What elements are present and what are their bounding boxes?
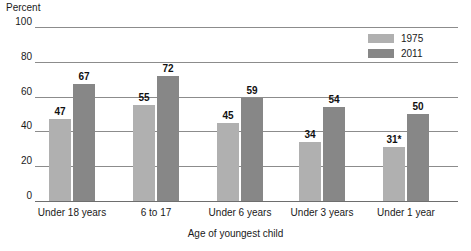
bar-group: 3454 — [299, 27, 345, 201]
bar-value-label: 50 — [401, 101, 435, 112]
legend-item-2011[interactable]: 2011 — [368, 47, 423, 60]
x-category-label: 6 to 17 — [141, 207, 172, 218]
y-tick-label-20: 20 — [6, 155, 32, 166]
bar-2011-under-1-year[interactable] — [407, 114, 429, 201]
x-axis-title: Age of youngest child — [0, 228, 471, 239]
x-category-label: Under 1 year — [377, 207, 435, 218]
bar-group: 5572 — [133, 27, 179, 201]
bar-chart: Percent 020406080100 476755724559345431*… — [0, 0, 471, 251]
bar-value-label: 34 — [293, 129, 327, 140]
bar-value-label: 47 — [43, 106, 77, 117]
y-tick-label-100: 100 — [6, 16, 32, 27]
bar-1975-6-to-17[interactable] — [133, 105, 155, 201]
y-axis-title: Percent — [6, 2, 40, 13]
bar-value-label: 67 — [67, 71, 101, 82]
bar-2011-under-3-years[interactable] — [323, 107, 345, 201]
y-tick-label-40: 40 — [6, 120, 32, 131]
bar-group: 4767 — [49, 27, 95, 201]
legend: 1975 2011 — [368, 32, 423, 62]
legend-swatch-2011 — [368, 49, 394, 58]
x-category-label: Under 6 years — [209, 207, 272, 218]
bar-value-label: 45 — [211, 110, 245, 121]
bar-value-label: 59 — [235, 85, 269, 96]
legend-label-2011: 2011 — [401, 48, 423, 59]
bar-1975-under-18-years[interactable] — [49, 119, 71, 201]
bar-1975-under-1-year[interactable] — [383, 147, 405, 201]
bar-value-label: 31* — [377, 134, 411, 145]
bar-2011-under-6-years[interactable] — [241, 98, 263, 201]
bar-1975-under-6-years[interactable] — [217, 123, 239, 201]
legend-label-1975: 1975 — [401, 33, 423, 44]
bar-value-label: 55 — [127, 92, 161, 103]
x-category-label: Under 18 years — [38, 207, 106, 218]
y-tick-label-80: 80 — [6, 50, 32, 61]
y-tick-label-60: 60 — [6, 85, 32, 96]
x-category-label: Under 3 years — [291, 207, 354, 218]
bar-value-label: 72 — [151, 63, 185, 74]
bar-group: 4559 — [217, 27, 263, 201]
gridline-0 — [35, 201, 458, 202]
legend-item-1975[interactable]: 1975 — [368, 32, 423, 45]
bar-2011-under-18-years[interactable] — [73, 84, 95, 201]
bar-2011-6-to-17[interactable] — [157, 76, 179, 201]
legend-swatch-1975 — [368, 34, 394, 43]
bar-1975-under-3-years[interactable] — [299, 142, 321, 201]
bar-value-label: 54 — [317, 94, 351, 105]
y-tick-label-0: 0 — [6, 190, 32, 201]
